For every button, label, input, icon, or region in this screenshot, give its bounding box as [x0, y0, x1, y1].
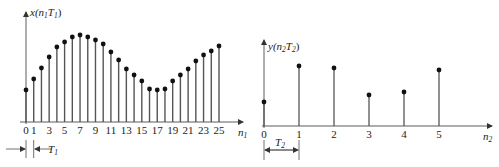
- stem-dot: [163, 87, 168, 92]
- right-y-axis-label: y(n2T2): [267, 40, 300, 54]
- tick-label: 25: [214, 124, 226, 136]
- tick-label: 3: [46, 124, 52, 136]
- right-x-axis-label: n2: [483, 130, 493, 144]
- stem-dot: [147, 87, 152, 92]
- stem-dot: [116, 58, 121, 63]
- stem-dot: [193, 59, 198, 64]
- right-stem-plot-y: 012345 y(n2T2) n2 T2: [261, 40, 492, 160]
- stem-dot: [186, 67, 191, 72]
- tick-label: 23: [198, 124, 210, 136]
- tick-label: 5: [436, 128, 442, 140]
- tick-label: 4: [401, 128, 407, 140]
- stem-dot: [70, 35, 75, 40]
- stem-dot: [93, 38, 98, 43]
- stem-dot: [262, 100, 267, 105]
- stem-dot: [54, 45, 59, 50]
- right-period-annotation: T2: [264, 136, 299, 160]
- tick-label: 21: [183, 124, 194, 136]
- tick-label: 19: [167, 124, 179, 136]
- stem-dot: [402, 90, 407, 95]
- left-stems: [24, 33, 222, 122]
- stem-dot: [85, 35, 90, 40]
- stem-dot: [297, 64, 302, 69]
- stem-dot: [31, 77, 36, 82]
- tick-label: 1: [31, 124, 37, 136]
- tick-label: 7: [77, 124, 83, 136]
- right-stems: [262, 64, 442, 126]
- tick-label: 15: [136, 124, 148, 136]
- stem-dot: [109, 50, 114, 55]
- stem-dot: [78, 33, 83, 38]
- tick-label: 17: [152, 124, 164, 136]
- tick-label: 5: [62, 124, 68, 136]
- stem-dot: [39, 66, 44, 71]
- left-y-axis-label: x(n1T1): [29, 6, 62, 20]
- tick-label: 9: [93, 124, 99, 136]
- tick-label: 0: [261, 128, 267, 140]
- tick-label: 11: [106, 124, 117, 136]
- stem-dot: [155, 88, 160, 93]
- left-period-annotation: T1: [6, 140, 58, 158]
- right-period-label: T2: [275, 136, 285, 150]
- left-x-axis-label: n1: [238, 126, 247, 140]
- left-period-label: T1: [48, 143, 58, 157]
- stem-dot: [132, 73, 137, 78]
- tick-label: 1: [296, 128, 302, 140]
- tick-label: 3: [366, 128, 372, 140]
- left-tick-labels: 0135791113151719212325: [23, 124, 225, 136]
- left-stem-plot-x: 0135791113151719212325 x(n1T1) n1 T1: [6, 6, 247, 158]
- stem-dot: [332, 66, 337, 71]
- stem-dot: [170, 79, 175, 84]
- stem-dot: [367, 93, 372, 98]
- stem-dot: [47, 55, 52, 60]
- stem-dot: [217, 44, 222, 49]
- tick-label: 2: [331, 128, 337, 140]
- stem-dot: [24, 88, 29, 93]
- stem-dot: [124, 67, 129, 72]
- stem-dot: [201, 53, 206, 58]
- tick-label: 13: [121, 124, 133, 136]
- stem-dot: [209, 49, 214, 54]
- stem-dot: [139, 79, 144, 84]
- stem-dot: [437, 68, 442, 73]
- tick-label: 0: [23, 124, 29, 136]
- sampled-signals-diagram: 0135791113151719212325 x(n1T1) n1 T1 012…: [0, 0, 499, 167]
- stem-dot: [101, 42, 106, 47]
- right-tick-labels: 012345: [261, 128, 442, 140]
- stem-dot: [178, 73, 183, 78]
- stem-dot: [62, 40, 67, 45]
